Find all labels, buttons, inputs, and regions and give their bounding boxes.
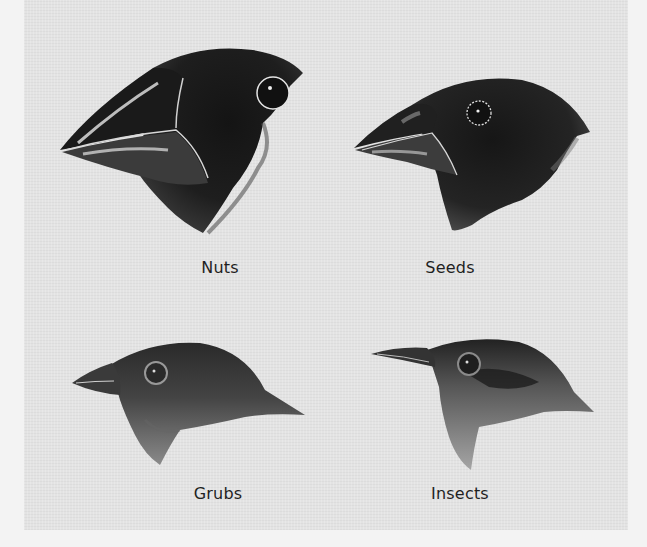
finch-illustration-grubs <box>70 335 310 470</box>
label-grubs: Grubs <box>158 484 278 503</box>
medium-beak-finch-icon <box>352 60 602 235</box>
large-beak-finch-icon <box>58 38 328 238</box>
label-seeds: Seeds <box>390 258 510 277</box>
small-beak-finch-icon <box>70 335 310 470</box>
label-nuts: Nuts <box>160 258 280 277</box>
finch-beaks-figure: Nuts Seeds <box>24 0 628 530</box>
thin-beak-finch-icon <box>369 332 609 472</box>
label-insects: Insects <box>400 484 520 503</box>
finch-illustration-insects <box>369 332 609 472</box>
finch-illustration-seeds <box>352 60 602 235</box>
finch-illustration-nuts <box>58 38 328 238</box>
